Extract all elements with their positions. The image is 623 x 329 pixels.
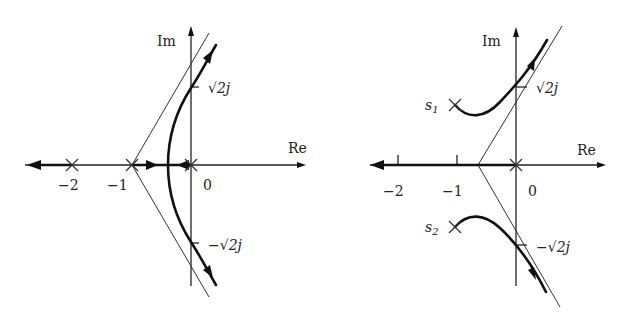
- right-tick-minus-1: −1: [442, 183, 463, 199]
- left-real-axis-arrow-icon: [297, 162, 306, 168]
- right-root-locus-plot: Im Re −2 −1 0 √2j −√2j: [370, 26, 606, 307]
- right-locus-lower-branch: [455, 217, 546, 292]
- right-pole-s2: [449, 221, 461, 233]
- right-imag-tick-label-neg: −√2j: [536, 239, 571, 255]
- left-tick-0: 0: [203, 177, 212, 193]
- right-locus-upper-branch: [455, 40, 547, 115]
- left-tick-minus-1: −1: [107, 177, 128, 193]
- right-imag-axis-label: Im: [482, 33, 501, 49]
- left-real-axis-label: Re: [288, 140, 307, 156]
- left-imag-axis-label: Im: [157, 33, 176, 49]
- left-root-locus-plot: Im Re −2 −1 0 √2j −√2j: [25, 26, 307, 297]
- right-tick-minus-2: −2: [383, 183, 404, 199]
- right-real-axis-arrow-icon: [597, 162, 606, 168]
- right-tick-0: 0: [528, 183, 537, 199]
- left-imag-tick-label-neg: −√2j: [208, 237, 243, 253]
- left-tick-minus-2: −2: [58, 177, 79, 193]
- left-imag-tick-label-pos: √2j: [208, 80, 231, 96]
- left-locus-arrow-right-icon: [146, 160, 158, 170]
- root-locus-figure: Im Re −2 −1 0 √2j −√2j: [0, 0, 623, 329]
- left-locus-arrow-up-icon: [203, 50, 213, 64]
- right-locus-arrow-left-icon: [370, 160, 384, 170]
- right-real-axis-label: Re: [577, 142, 596, 158]
- left-imag-axis-arrow-icon: [188, 26, 194, 36]
- left-locus-arrow-left-icon: [27, 160, 41, 170]
- right-imag-axis-arrow-icon: [513, 27, 519, 37]
- right-pole-label-s1: s1: [425, 97, 439, 115]
- right-asymptote-lower: [478, 165, 560, 307]
- right-pole-s1: [449, 99, 461, 111]
- right-imag-tick-label-pos: √2j: [536, 80, 559, 96]
- right-locus-arrow-down-icon: [528, 267, 536, 280]
- right-pole-label-s2: s2: [425, 219, 439, 237]
